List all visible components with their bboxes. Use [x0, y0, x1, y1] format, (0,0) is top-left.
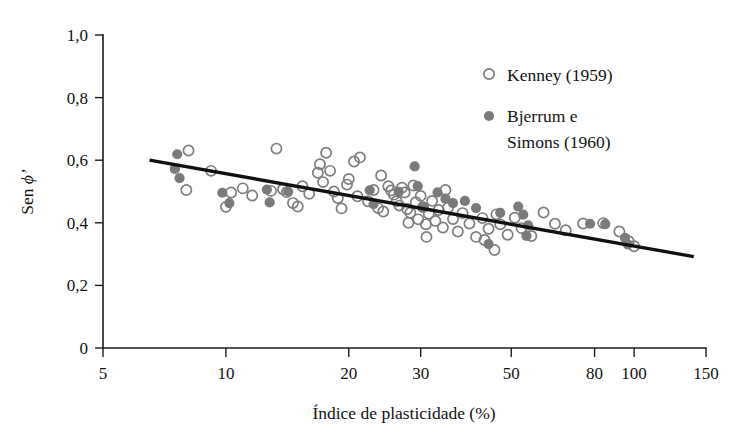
- data-point-filled: [224, 198, 234, 208]
- x-axis-title: Índice de plasticidade (%): [312, 403, 495, 423]
- data-point-open: [321, 148, 331, 158]
- x-tick-label: 100: [621, 364, 647, 383]
- x-tick-label: 10: [217, 364, 234, 383]
- legend-label-kenney: Kenney (1959): [507, 65, 613, 85]
- data-point-filled: [262, 185, 272, 195]
- data-point-filled: [410, 161, 420, 171]
- data-point-filled: [413, 181, 423, 191]
- x-tick-label: 20: [340, 364, 357, 383]
- y-tick-label: 0,8: [67, 89, 88, 108]
- series-kenney-points: [181, 144, 639, 256]
- data-point-open: [438, 222, 448, 232]
- scatter-plot-figure: 00,20,40,60,81,0 51020305080100150 Kenne…: [0, 0, 742, 445]
- data-point-filled: [448, 198, 458, 208]
- data-point-filled: [600, 219, 610, 229]
- data-point-open: [226, 187, 236, 197]
- legend-marker-open-circle-icon: [484, 69, 494, 79]
- data-point-open: [453, 226, 463, 236]
- data-point-open: [336, 203, 346, 213]
- data-point-open: [325, 166, 335, 176]
- data-point-open: [421, 232, 431, 242]
- data-point-filled: [495, 208, 505, 218]
- y-tick-label: 0,6: [67, 151, 88, 170]
- x-axis-ticks: 51020305080100150: [99, 348, 719, 383]
- legend-marker-filled-circle-icon: [484, 111, 494, 121]
- data-point-filled: [172, 149, 182, 159]
- x-tick-label: 150: [693, 364, 719, 383]
- y-axis-title-group: Sen ϕ’: [17, 169, 37, 215]
- data-point-filled: [521, 231, 531, 241]
- data-point-filled: [460, 196, 470, 206]
- y-tick-label: 0,2: [67, 276, 88, 295]
- y-axis-title-symbol: ϕ’: [17, 169, 37, 184]
- y-tick-label: 0: [80, 339, 89, 358]
- legend-label-bjerrum-line1: Bjerrum e: [507, 106, 578, 126]
- y-axis-ticks: 00,20,40,60,81,0: [67, 26, 103, 358]
- chart-legend: Kenney (1959) Bjerrum e Simons (1960): [484, 65, 613, 152]
- data-point-open: [318, 177, 328, 187]
- data-point-filled: [483, 239, 493, 249]
- data-point-open: [181, 185, 191, 195]
- x-tick-label: 80: [586, 364, 603, 383]
- x-tick-label: 50: [503, 364, 520, 383]
- data-point-open: [483, 224, 493, 234]
- y-axis-title: Sen ϕ’: [17, 169, 37, 215]
- data-point-filled: [265, 197, 275, 207]
- y-tick-label: 0,4: [67, 214, 89, 233]
- data-point-open: [503, 230, 513, 240]
- y-tick-label: 1,0: [67, 26, 88, 45]
- data-point-open: [403, 218, 413, 228]
- x-tick-label: 30: [412, 364, 429, 383]
- legend-label-bjerrum-line2: Simons (1960): [507, 132, 611, 152]
- data-point-open: [427, 196, 437, 206]
- data-point-open: [247, 190, 257, 200]
- data-point-open: [550, 219, 560, 229]
- data-point-open: [538, 207, 548, 217]
- data-point-open: [238, 183, 248, 193]
- data-point-filled: [518, 210, 528, 220]
- data-point-open: [183, 145, 193, 155]
- data-point-filled: [585, 219, 595, 229]
- data-point-filled: [217, 188, 227, 198]
- x-tick-label: 5: [99, 364, 108, 383]
- chart-canvas: 00,20,40,60,81,0 51020305080100150 Kenne…: [0, 0, 742, 445]
- data-point-open: [376, 170, 386, 180]
- y-axis-title-prefix: Sen: [17, 184, 37, 215]
- data-point-filled: [471, 203, 481, 213]
- data-point-filled: [174, 173, 184, 183]
- data-point-filled: [394, 187, 404, 197]
- data-point-filled: [283, 186, 293, 196]
- data-point-open: [464, 218, 474, 228]
- data-point-open: [271, 144, 281, 154]
- data-point-filled: [365, 185, 375, 195]
